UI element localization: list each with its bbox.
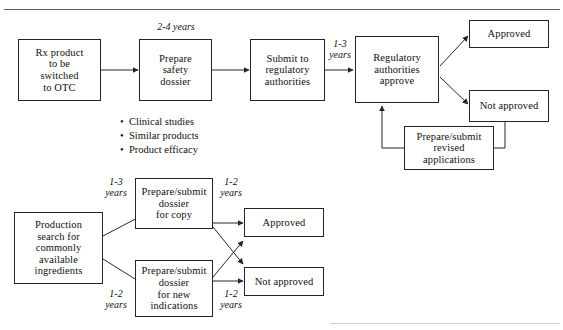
duration-submit-to-approve: 1-3 years [325,39,355,61]
edge-approve-to-notapproved [440,77,468,104]
bullet-annotations: Clinical studies Similar products Produc… [120,115,199,158]
node-submit-to-authorities-label: Submit to regulatory authorities [263,53,312,88]
node-approved-top-label: Approved [486,28,533,40]
duration-copy-to-outcome: 1-2 years [215,177,247,199]
node-not-approved-bottom[interactable]: Not approved [244,267,324,296]
duration-rx-to-safety: 2-4 years [135,22,217,33]
bullet-item: Product efficacy [120,143,199,157]
edge-new-to-approved [213,241,243,277]
node-revised-applications[interactable]: Prepare/submit revised applications [404,126,494,170]
node-production-search-label: Production search for commonly available… [33,219,85,277]
bottom-divider-rule [330,323,560,324]
node-approved-bottom-label: Approved [261,217,308,229]
node-production-search[interactable]: Production search for commonly available… [14,212,103,284]
node-approved-top[interactable]: Approved [469,20,549,48]
node-revised-applications-label: Prepare/submit revised applications [415,131,484,166]
bullet-item: Similar products [120,129,199,143]
duration-search-to-copy: 1-3 years [100,177,132,199]
edge-approve-to-approved [440,36,468,66]
node-dossier-for-copy[interactable]: Prepare/submit dossier for copy [135,178,213,229]
node-not-approved-top[interactable]: Not approved [469,90,549,122]
node-approved-bottom[interactable]: Approved [244,208,324,237]
node-dossier-new-indications-label: Prepare/submit dossier for new indicatio… [140,265,209,311]
flowchart-canvas: Rx product to be switched to OTC Prepare… [0,0,563,330]
node-dossier-for-copy-label: Prepare/submit dossier for copy [140,186,209,221]
node-regulatory-authorities-approve[interactable]: Regulatory authorities approve [355,36,439,103]
edge-copy-to-notapproved [213,227,243,264]
node-submit-to-authorities[interactable]: Submit to regulatory authorities [250,39,325,101]
node-not-approved-bottom-label: Not approved [253,276,316,288]
bullet-item: Clinical studies [120,115,199,129]
duration-search-to-new: 1-2 years [100,289,132,311]
node-prepare-safety-dossier[interactable]: Prepare safety dossier [139,39,212,101]
duration-new-to-outcome: 1-2 years [215,289,247,311]
edge-revised-to-approve [382,106,404,148]
node-prepare-safety-dossier-label: Prepare safety dossier [157,53,194,88]
top-divider-rule [4,9,560,10]
node-regulatory-authorities-approve-label: Regulatory authorities approve [371,52,423,87]
node-not-approved-top-label: Not approved [478,100,541,112]
node-rx-product[interactable]: Rx product to be switched to OTC [18,39,101,101]
node-dossier-new-indications[interactable]: Prepare/submit dossier for new indicatio… [135,260,213,317]
node-rx-product-label: Rx product to be switched to OTC [34,47,86,93]
